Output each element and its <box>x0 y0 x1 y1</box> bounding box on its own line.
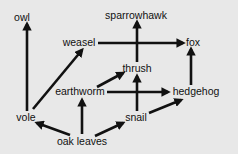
node-fox: fox <box>186 36 201 48</box>
node-thrush: thrush <box>122 62 151 74</box>
node-oak-leaves: oak leaves <box>57 135 107 147</box>
node-vole: vole <box>16 111 35 123</box>
arrow-oak-leaves-to-vole <box>37 123 70 135</box>
node-sparrowhawk: sparrowhawk <box>105 9 168 21</box>
node-earthworm: earthworm <box>55 85 105 97</box>
node-snail: snail <box>125 111 147 123</box>
food-web-diagram: owlsparrowhawkweaselfoxthrushearthwormhe… <box>0 0 238 154</box>
node-weasel: weasel <box>62 36 96 48</box>
node-hedgehog: hedgehog <box>173 85 220 97</box>
node-owl: owl <box>14 11 30 23</box>
arrow-vole-to-weasel <box>33 50 82 109</box>
edges-layer <box>27 22 191 136</box>
arrow-snail-to-hedgehog <box>149 100 181 113</box>
diagram-canvas: owlsparrowhawkweaselfoxthrushearthwormhe… <box>0 0 238 154</box>
